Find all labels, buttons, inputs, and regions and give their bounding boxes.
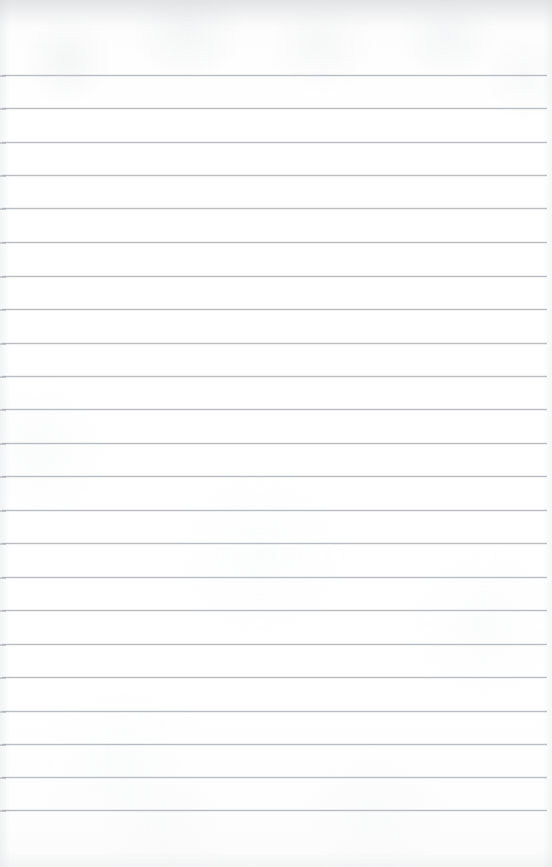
ruled-paper-page <box>0 0 552 867</box>
paper-surface <box>0 0 552 867</box>
